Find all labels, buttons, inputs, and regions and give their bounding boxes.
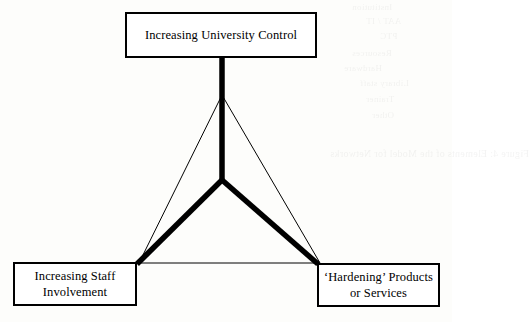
thick-y-connector xyxy=(137,57,318,264)
node-hardening-products-or-services[interactable]: ‘Hardening’ Products or Services xyxy=(317,263,440,307)
node-label: ‘Hardening’ Products or Services xyxy=(319,269,438,301)
node-label: Increasing University Control xyxy=(141,27,301,43)
node-label: Increasing Staff Involvement xyxy=(15,268,135,300)
thick-edge-center-to-right xyxy=(222,180,318,264)
node-increasing-staff-involvement[interactable]: Increasing Staff Involvement xyxy=(13,262,137,306)
thick-edge-center-to-left xyxy=(137,180,222,264)
node-increasing-university-control[interactable]: Increasing University Control xyxy=(125,12,317,58)
thin-edge-top-to-left xyxy=(139,95,222,263)
thin-edge-top-to-right xyxy=(222,95,320,263)
